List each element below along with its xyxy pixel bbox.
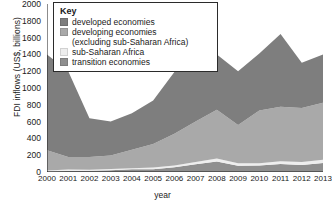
legend-item: developed economies (60, 17, 213, 27)
x-tick-label: 2002 (81, 174, 99, 183)
x-tick-label: 2006 (165, 174, 183, 183)
legend-item-label-continued: (excluding sub-Saharan Africa) (72, 37, 213, 47)
chart-legend: Key developed economiesdeveloping econom… (53, 2, 218, 72)
x-tick-label: 2010 (250, 174, 268, 183)
legend-swatch-icon (60, 28, 68, 36)
x-tick-label: 2013 (314, 174, 332, 183)
x-tick-label: 2012 (293, 174, 311, 183)
x-tick-label: 2009 (229, 174, 247, 183)
x-tick-label: 2001 (59, 174, 77, 183)
legend-swatch-icon (60, 18, 68, 26)
x-tick-label: 2007 (187, 174, 205, 183)
legend-swatch-icon (60, 48, 68, 56)
legend-title: Key (60, 6, 213, 16)
x-tick-label: 2003 (102, 174, 120, 183)
legend-swatch-icon (60, 58, 68, 66)
legend-item-label: transition economies (72, 57, 150, 67)
x-tick-label: 2004 (123, 174, 141, 183)
legend-item: developing economies (60, 27, 213, 37)
x-tick-label: 2000 (38, 174, 56, 183)
x-tick-label: 2011 (272, 174, 289, 183)
legend-item: transition economies (60, 57, 213, 67)
legend-item-label: sub-Saharan Africa (72, 47, 144, 57)
x-tick-label: 2008 (208, 174, 226, 183)
legend-item: sub-Saharan Africa (60, 47, 213, 57)
legend-items: developed economiesdeveloping economies(… (58, 17, 213, 67)
x-tick-label: 2005 (144, 174, 162, 183)
legend-item-label: developed economies (72, 17, 155, 27)
legend-item-label: developing economies (72, 27, 157, 37)
